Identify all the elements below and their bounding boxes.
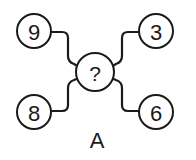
center-node-label: ? [89,62,101,85]
connector-bottom-right [111,78,138,111]
node-bottom-left-label: 8 [28,101,40,126]
node-bottom-right: 6 [139,95,173,129]
node-bottom-right-label: 6 [150,101,162,126]
diagram-caption: A [90,128,105,153]
node-top-right-label: 3 [150,20,162,45]
connector-bottom-left [52,78,79,111]
node-top-left-label: 9 [28,20,40,45]
connector-top-left [52,32,79,67]
node-top-right: 3 [139,14,173,48]
connector-top-right [111,32,138,67]
center-node: ? [76,53,114,91]
node-bottom-left: 8 [17,95,51,129]
number-puzzle-diagram: ? 9 3 8 6 A [0,0,196,160]
node-top-left: 9 [17,14,51,48]
